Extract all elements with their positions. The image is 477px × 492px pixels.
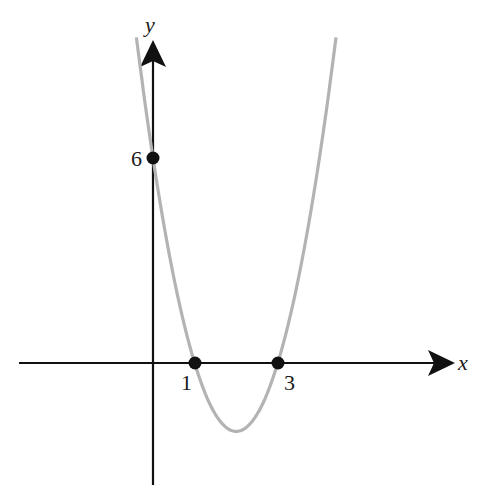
label-root-3: 3 bbox=[284, 370, 295, 395]
point-root-1 bbox=[189, 357, 202, 370]
label-root-1: 1 bbox=[181, 370, 192, 395]
parabola-graph: 6 1 3 x y bbox=[0, 0, 477, 492]
parabola-curve bbox=[136, 37, 336, 431]
label-y-intercept: 6 bbox=[131, 146, 142, 171]
point-y-intercept bbox=[147, 152, 160, 165]
point-root-3 bbox=[272, 357, 285, 370]
x-axis-label: x bbox=[457, 350, 468, 375]
y-axis-label: y bbox=[143, 12, 155, 37]
